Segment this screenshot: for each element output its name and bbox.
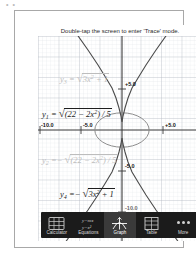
y2-minus: − (57, 155, 63, 165)
toolbar-label-graph: Graph (114, 230, 127, 235)
bottom-toolbar[interactable]: Calculator y=mx y=x² Equations (41, 212, 196, 238)
y2-radicand-pre: (22 − 2x (71, 155, 100, 165)
y2-radicand-post: ) / 5 (103, 155, 117, 165)
y4-minus: − (75, 189, 81, 199)
y4-sub: 4 (64, 194, 67, 200)
graph-svg (38, 36, 196, 241)
equation-label-y4: y4 =− √ 3x2 + 1 (60, 188, 115, 200)
x-axis-label-neg5: -5.0 (83, 122, 92, 128)
svg-text:y=x²: y=x² (81, 224, 92, 229)
toolbar-item-graph[interactable]: Graph (104, 212, 136, 238)
calculator-screen[interactable]: Double-tap the screen to enter 'Trace' m… (38, 25, 196, 241)
y4-radicand-post: + 1 (100, 189, 114, 199)
radical-sign-icon: √ (65, 153, 71, 165)
toolbar-label-calculator: Calculator (46, 230, 67, 235)
calculator-icon (48, 216, 65, 229)
y2-sub: 2 (46, 160, 49, 166)
radical-sign-icon: √ (77, 72, 83, 84)
more-dots-icon (177, 216, 190, 229)
y1-sub: 1 (46, 114, 49, 120)
hint-bar: Double-tap the screen to enter 'Trace' m… (38, 25, 196, 36)
y1-radicand-pre: (22 − 2x (65, 109, 94, 119)
equation-label-y3: y3 = √ 3x2 + 1 (60, 73, 109, 85)
toolbar-label-more: More (178, 230, 188, 235)
y3-eq: = (69, 74, 75, 84)
graph-plot-area[interactable]: y3 = √ 3x2 + 1 y1 = √ (22 − 2x2) / 5 (38, 36, 196, 241)
scan-artifact: • • (6, 2, 16, 7)
y4-radicand-pre: 3x (89, 189, 97, 199)
toolbar-label-equations: Equations (78, 230, 98, 235)
graph-icon (111, 216, 128, 229)
y-axis-label-neg5: -5.0 (125, 163, 134, 169)
svg-text:y=mx: y=mx (81, 218, 94, 223)
y3-radicand-post: + 1 (94, 74, 108, 84)
hint-text: Double-tap the screen to enter 'Trace' m… (61, 28, 179, 34)
x-axis-label-neg10: -10.0 (41, 122, 54, 128)
page-frame: Double-tap the screen to enter 'Trace' m… (14, 10, 184, 248)
toolbar-label-table: Table (146, 230, 157, 235)
equation-label-y1: y1 = √ (22 − 2x2) / 5 (42, 108, 112, 120)
toolbar-item-calculator[interactable]: Calculator (41, 212, 73, 238)
y3-radicand-pre: 3x (83, 74, 91, 84)
y1-eq: = (51, 109, 57, 119)
equation-label-y2: y2 =− √ (22 − 2x2) / 5 (42, 154, 118, 166)
equations-icon: y=mx y=x² (80, 216, 97, 229)
toolbar-item-more[interactable]: More (167, 212, 196, 238)
y3-radical: √ 3x2 + 1 (77, 73, 109, 84)
toolbar-item-equations[interactable]: y=mx y=x² Equations (73, 212, 105, 238)
x-axis-label-pos5: +5.0 (165, 122, 176, 128)
table-icon (143, 216, 160, 229)
y1-radicand-post: ) / 5 (97, 109, 111, 119)
y-axis-label-neg10: -10.0 (125, 205, 138, 211)
toolbar-item-table[interactable]: Table (136, 212, 168, 238)
y2-radical: √ (22 − 2x2) / 5 (65, 154, 118, 165)
screenshot-page: • • Double-tap the screen to enter 'Trac… (0, 0, 196, 259)
radical-sign-icon: √ (83, 187, 89, 199)
y-axis-label-pos5: +5.0 (125, 81, 136, 87)
grid-layer (38, 36, 196, 241)
y1-radical: √ (22 − 2x2) / 5 (59, 108, 112, 119)
radical-sign-icon: √ (59, 107, 65, 119)
y4-radical: √ 3x2 + 1 (83, 188, 115, 199)
y3-sub: 3 (64, 79, 67, 85)
